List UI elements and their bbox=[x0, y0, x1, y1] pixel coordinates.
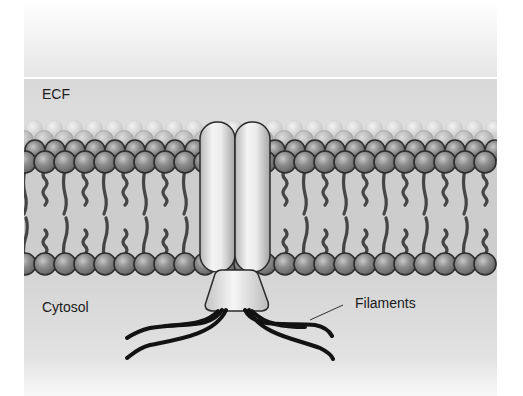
cytoplasmic-cone-domain bbox=[205, 270, 268, 311]
filaments-label: Filaments bbox=[355, 295, 416, 311]
protein-cylinder-left bbox=[200, 122, 235, 272]
ecf-label: ECF bbox=[42, 86, 70, 102]
diagram-canvas bbox=[0, 0, 523, 396]
separator-line bbox=[24, 77, 497, 79]
membrane-diagram: ECF Cytosol Filaments bbox=[0, 0, 523, 396]
protein-cylinder-right bbox=[235, 122, 270, 272]
top-fade-region bbox=[24, 0, 497, 77]
cytosol-label: Cytosol bbox=[42, 299, 89, 315]
